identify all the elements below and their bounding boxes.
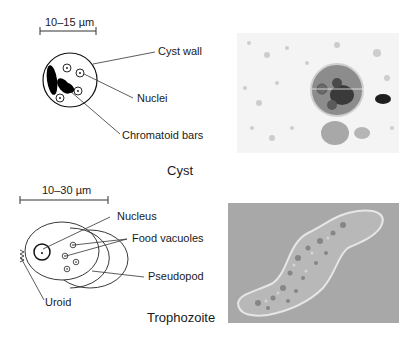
trophozoite-micrograph — [228, 203, 399, 323]
pseudopod-label: Pseudopod — [148, 271, 204, 282]
cyst-scale-bar — [40, 27, 96, 35]
cyst-micrograph-image — [237, 33, 399, 153]
nuclei-label: Nuclei — [137, 93, 168, 104]
trophozoite-title: Trophozoite — [147, 311, 215, 324]
food-vacuoles-label: Food vacuoles — [132, 233, 204, 244]
nucleus-label: Nucleus — [117, 211, 157, 222]
cyst-scale-label: 10–15 µm — [45, 17, 94, 28]
cyst-micrograph — [237, 33, 399, 153]
cyst-wall-label: Cyst wall — [158, 46, 202, 57]
trophozoite-scale-label: 10–30 µm — [42, 185, 91, 196]
trophozoite-micrograph-image — [228, 203, 399, 323]
trophozoite-scale-bar — [20, 196, 108, 204]
chromatoid-bars-label: Chromatoid bars — [122, 130, 203, 141]
uroid-label: Uroid — [45, 297, 71, 308]
trophozoite-diagram — [20, 217, 144, 300]
cyst-title: Cyst — [167, 164, 193, 177]
